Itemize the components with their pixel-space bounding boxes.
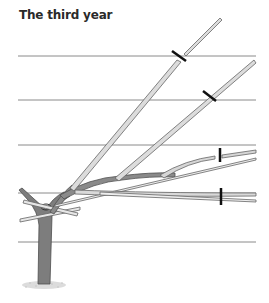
cane-1 — [70, 18, 222, 191]
cane-4 — [75, 188, 256, 205]
vine-illustration — [0, 0, 269, 303]
